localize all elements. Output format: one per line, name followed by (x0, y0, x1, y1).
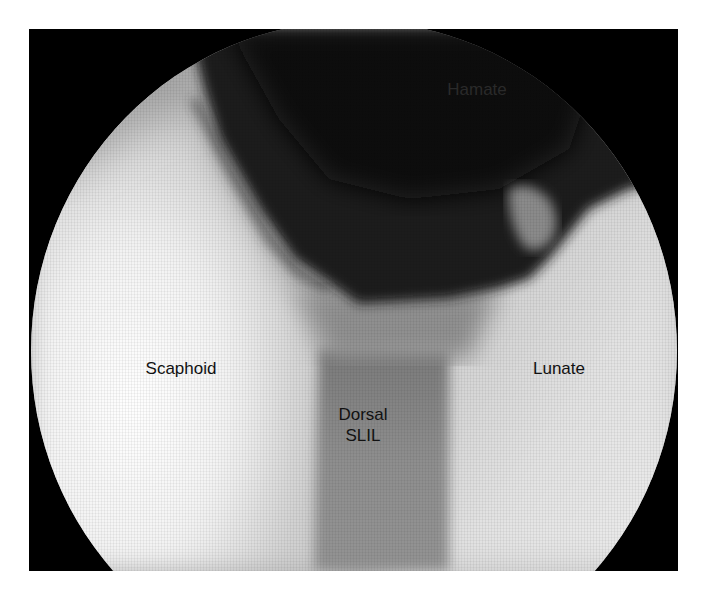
arthroscopic-scope-view (29, 29, 678, 571)
image-frame: Hamate Scaphoid Lunate Dorsal SLIL (29, 29, 678, 571)
label-dorsal-slil: Dorsal SLIL (323, 404, 403, 446)
label-hamate: Hamate (432, 79, 522, 100)
label-lunate: Lunate (524, 358, 594, 379)
label-scaphoid: Scaphoid (133, 358, 229, 379)
